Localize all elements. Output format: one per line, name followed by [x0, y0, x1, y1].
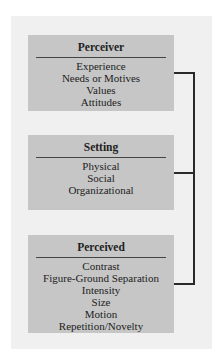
box-item: Size	[28, 296, 174, 308]
connector-setting	[174, 172, 195, 174]
setting-box: Setting Physical Social Organizational	[28, 135, 174, 210]
box-title: Perceiver	[28, 35, 174, 57]
box-item: Contrast	[28, 260, 174, 272]
title-divider	[36, 157, 166, 158]
box-item: Social	[28, 172, 174, 184]
box-title: Setting	[28, 135, 174, 157]
box-item: Repetition/Novelty	[28, 320, 174, 332]
box-item: Physical	[28, 160, 174, 172]
connector-vertical	[193, 72, 195, 285]
connector-perceiver	[174, 72, 195, 74]
perceiver-box: Perceiver Experience Needs or Motives Va…	[28, 35, 174, 111]
perceived-box: Perceived Contrast Figure-Ground Separat…	[28, 235, 174, 333]
box-item: Figure-Ground Separation	[28, 272, 174, 284]
box-title: Perceived	[28, 235, 174, 257]
box-item: Needs or Motives	[28, 72, 174, 84]
title-divider	[36, 257, 166, 258]
box-item: Attitudes	[28, 96, 174, 108]
box-item: Intensity	[28, 284, 174, 296]
box-item: Experience	[28, 60, 174, 72]
title-divider	[36, 57, 166, 58]
box-item: Values	[28, 84, 174, 96]
box-item: Motion	[28, 308, 174, 320]
box-item: Organizational	[28, 184, 174, 196]
connector-perceived	[174, 283, 195, 285]
